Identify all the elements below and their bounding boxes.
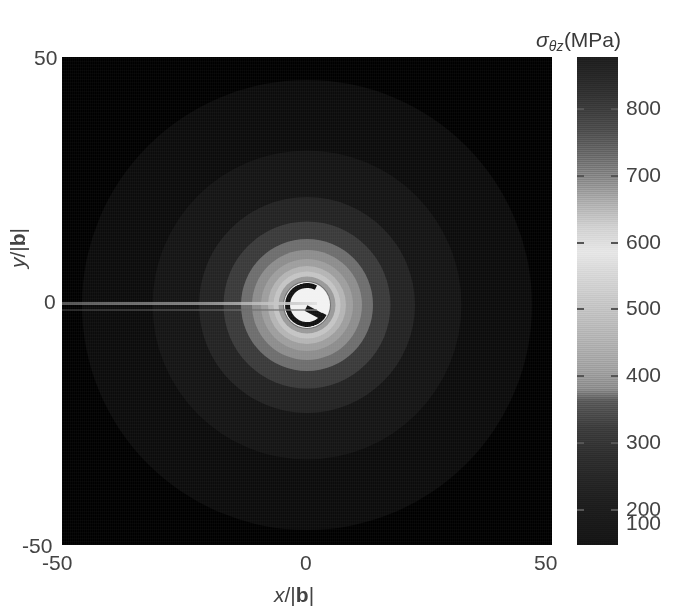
x-tick-mid: 0 (300, 551, 312, 575)
x-tick-min: -50 (42, 551, 72, 575)
colorbar (577, 57, 618, 545)
stress-field-heatmap (62, 57, 552, 545)
colorbar-title-unit: (MPa) (564, 28, 621, 51)
y-tick-mid: 0 (44, 290, 56, 314)
colorbar-label-100: 100 (626, 511, 661, 535)
colorbar-tick-mark (611, 242, 618, 244)
colorbar-tick-mark (577, 242, 584, 244)
colorbar-tick-mark (611, 108, 618, 110)
colorbar-tick-mark (577, 308, 584, 310)
colorbar-title-subscript: θz (549, 38, 564, 54)
colorbar-tick-mark (577, 509, 584, 511)
y-tick-max: 50 (34, 46, 57, 70)
colorbar-label-700: 700 (626, 163, 661, 187)
colorbar-tick-mark (577, 375, 584, 377)
field-noise-texture (62, 57, 552, 545)
plot-area (62, 57, 552, 545)
colorbar-label-800: 800 (626, 96, 661, 120)
colorbar-tick-mark (611, 175, 618, 177)
colorbar-label-300: 300 (626, 430, 661, 454)
colorbar-label-500: 500 (626, 296, 661, 320)
colorbar-tick-mark (611, 308, 618, 310)
colorbar-tick-mark (611, 509, 618, 511)
colorbar-tick-mark (577, 175, 584, 177)
colorbar-noise-texture (577, 57, 618, 545)
x-tick-max: 50 (534, 551, 557, 575)
colorbar-tick-mark (577, 108, 584, 110)
colorbar-label-600: 600 (626, 230, 661, 254)
colorbar-label-400: 400 (626, 363, 661, 387)
colorbar-tick-mark (611, 375, 618, 377)
colorbar-tick-mark (577, 442, 584, 444)
y-axis-label: y/|b| (6, 228, 30, 268)
colorbar-title: σθz(MPa) (536, 28, 621, 54)
colorbar-tick-mark (611, 442, 618, 444)
x-axis-label: x/|b| (274, 583, 314, 607)
